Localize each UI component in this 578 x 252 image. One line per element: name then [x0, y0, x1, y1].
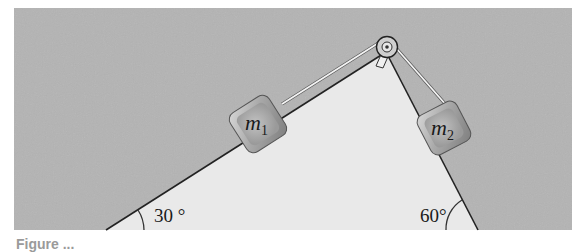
- angle-label-right: 60°: [420, 205, 447, 226]
- figure-caption: Figure ...: [16, 236, 74, 252]
- angle-label-left: 30 °: [154, 205, 185, 226]
